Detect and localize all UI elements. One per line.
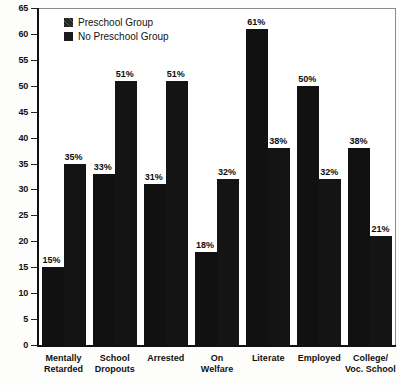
bar-value-label: 32% — [320, 168, 338, 177]
x-axis-category-line: Dropouts — [83, 364, 147, 375]
bar — [370, 236, 392, 345]
bar — [348, 148, 370, 345]
bar-value-label: 51% — [167, 70, 185, 79]
x-axis-category-line: Voc. School — [338, 364, 399, 375]
bar-value-label: 15% — [43, 256, 61, 265]
bar — [144, 184, 166, 345]
x-axis-category-line: Welfare — [185, 364, 249, 375]
bar — [297, 86, 319, 345]
bar — [195, 252, 217, 345]
bar — [115, 81, 137, 345]
bar-value-label: 38% — [349, 137, 367, 146]
bar-value-label: 32% — [218, 168, 236, 177]
x-axis-category-label: College/Voc. School — [338, 353, 399, 375]
bar — [246, 29, 268, 345]
bar — [42, 267, 64, 345]
x-axis-category-line: College/ — [338, 353, 399, 364]
bar-value-label: 50% — [298, 75, 316, 84]
x-axis-labels: MentallyRetardedSchoolDropoutsArrestedOn… — [0, 349, 399, 385]
bar-value-label: 21% — [371, 225, 389, 234]
bar-value-label: 35% — [65, 153, 83, 162]
bars-layer: 15%35%33%51%31%51%18%32%61%38%50%32%38%2… — [0, 0, 399, 385]
bar-value-label: 18% — [196, 241, 214, 250]
bar-value-label: 51% — [116, 70, 134, 79]
bar-value-label: 61% — [247, 18, 265, 27]
bar — [93, 174, 115, 345]
bar — [268, 148, 290, 345]
bar-value-label: 31% — [145, 173, 163, 182]
bar — [217, 179, 239, 345]
bar — [166, 81, 188, 345]
bar — [64, 164, 86, 345]
bar — [319, 179, 341, 345]
bar-chart: 05101520253035404550556065 Preschool Gro… — [0, 0, 399, 385]
bar-value-label: 33% — [94, 163, 112, 172]
bar-value-label: 38% — [269, 137, 287, 146]
